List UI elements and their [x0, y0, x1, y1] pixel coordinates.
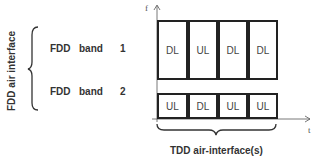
band1-slot-2: UL	[187, 20, 218, 80]
band2-slot-4: UL	[247, 93, 278, 119]
left-brace-icon	[28, 27, 38, 110]
band2-band: band	[79, 86, 103, 97]
band2-slot-1: UL	[157, 93, 188, 119]
band1-slot-1: DL	[157, 20, 188, 80]
f-axis-label: f	[145, 3, 148, 13]
band1-band: band	[79, 43, 103, 54]
band1-num: 1	[120, 43, 126, 54]
band1-slot-4: DL	[247, 20, 278, 80]
band2-fdd: FDD	[50, 86, 71, 97]
band1-fdd: FDD	[50, 43, 71, 54]
band2-num: 2	[120, 86, 126, 97]
t-axis-label: t	[308, 125, 311, 135]
band2-slot-3: UL	[217, 93, 248, 119]
band2-slot-2: DL	[187, 93, 218, 119]
tdd-air-interface-label: TDD air-interface(s)	[170, 145, 263, 156]
band1-slot-3: DL	[217, 20, 248, 80]
